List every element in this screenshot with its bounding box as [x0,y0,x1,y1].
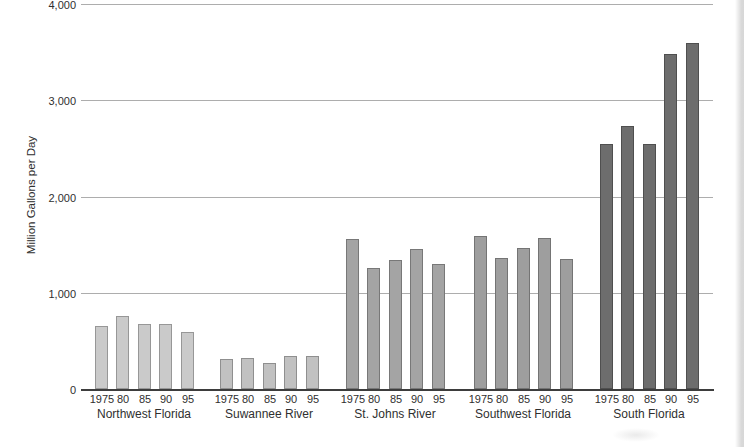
bar [284,356,297,389]
group-label: Suwannee River [225,407,313,421]
bar [263,363,276,389]
x-tick-label: 95 [170,393,206,405]
y-tick-label: 1,000 [30,288,76,300]
bar [389,260,402,389]
gridline-2000 [81,197,713,198]
bar [181,332,194,389]
bar [600,144,613,389]
bar [346,239,359,389]
bar [643,144,656,389]
bar [95,326,108,389]
x-tick-label: 95 [421,393,457,405]
group-label: Northwest Florida [97,407,191,421]
bar [116,316,129,389]
bar [306,356,319,389]
scan-smudge-artifact [612,428,660,442]
x-tick-label: 95 [549,393,585,405]
bar [560,259,573,389]
gridline-3000 [81,100,713,101]
group-label: Southwest Florida [475,407,571,421]
bar [517,248,530,389]
page-edge-artifact [735,0,744,447]
bar [159,324,172,389]
bar [621,126,634,389]
bar [538,238,551,389]
bar [686,43,699,389]
y-tick-label: 4,000 [30,0,76,11]
group-label: South Florida [613,407,684,421]
bar [495,258,508,389]
y-tick-label: 3,000 [30,95,76,107]
bar [432,264,445,389]
x-axis-line [81,389,714,391]
gridline-4000 [81,4,713,5]
y-tick-label: 0 [30,384,76,396]
bar [241,358,254,389]
x-tick-label: 95 [295,393,331,405]
bar [138,324,151,389]
bar [664,54,677,389]
bar-chart-figure: Million Gallons per Day 01,0002,0003,000… [0,0,744,447]
x-tick-label: 95 [675,393,711,405]
bar [367,268,380,389]
group-label: St. Johns River [354,407,435,421]
y-tick-label: 2,000 [30,192,76,204]
bar [410,249,423,389]
bar [474,236,487,389]
bar [220,359,233,389]
